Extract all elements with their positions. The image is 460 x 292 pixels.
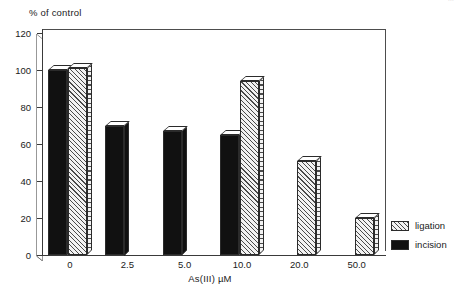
x-tick-label-5.0: 5.0	[178, 259, 191, 270]
plot-frame-top	[42, 29, 386, 30]
y-tick-120	[37, 33, 42, 34]
legend-item-ligation: ligation	[391, 219, 459, 235]
y-tick-label-60: 60	[20, 139, 31, 150]
y-tick-60	[37, 144, 42, 145]
y-tick-0	[37, 255, 42, 256]
bar-incision-5.0	[163, 131, 182, 255]
y-tick-100	[37, 70, 42, 71]
y-tick-label-80: 80	[20, 102, 31, 113]
bar-incision-0	[48, 70, 67, 255]
x-axis-line	[42, 255, 386, 256]
chart-canvas: ... % of control 020406080100120 02.55.0…	[0, 0, 460, 292]
y-tick-label-120: 120	[15, 28, 31, 39]
bar-front-face	[163, 131, 182, 255]
plot-area	[36, 29, 386, 256]
bar-front-face	[68, 68, 87, 255]
chart-legend: ligationincision	[391, 219, 459, 257]
bar-ligation-10.0	[240, 81, 259, 255]
legend-item-incision: incision	[391, 238, 459, 254]
bar-front-face	[240, 81, 259, 255]
bar-ligation-50.0	[355, 218, 374, 255]
bar-side-face	[259, 76, 264, 255]
bar-ligation-20.0	[297, 161, 316, 255]
bar-incision-10.0	[220, 135, 239, 255]
bar-side-face	[316, 156, 321, 255]
legend-label-incision: incision	[415, 239, 447, 250]
x-axis-title: As(III) µM	[0, 273, 420, 284]
y-tick-label-100: 100	[15, 65, 31, 76]
legend-label-ligation: ligation	[415, 220, 445, 231]
legend-swatch-ligation	[391, 221, 409, 231]
y-axis-title: % of control	[29, 7, 82, 18]
y-tick-label-40: 40	[20, 176, 31, 187]
bar-front-face	[355, 218, 374, 255]
y-tick-label-20: 20	[20, 213, 31, 224]
bar-side-face	[182, 126, 187, 255]
bar-ligation-0	[68, 68, 87, 255]
plot-frame-right	[385, 29, 386, 251]
y-tick-20	[37, 218, 42, 219]
bar-side-face	[87, 63, 92, 255]
bar-front-face	[220, 135, 239, 255]
y-tick-40	[37, 181, 42, 182]
x-tick-label-0: 0	[67, 259, 72, 270]
bar-incision-2.5	[105, 126, 124, 256]
legend-swatch-incision	[391, 240, 409, 250]
x-tick-label-50.0: 50.0	[347, 259, 366, 270]
x-axis-tick-labels: 02.55.010.020.050.0	[36, 259, 386, 273]
x-tick-label-2.5: 2.5	[121, 259, 134, 270]
x-tick-label-20.0: 20.0	[290, 259, 309, 270]
bar-side-face	[374, 213, 379, 255]
bar-side-face	[124, 121, 129, 256]
y-tick-label-0: 0	[26, 250, 31, 261]
y-axis-line	[42, 29, 43, 256]
header-faint-text: ...	[448, 0, 454, 2]
bar-front-face	[105, 126, 124, 256]
y-axis-tick-labels: 020406080100120	[0, 29, 31, 256]
bar-front-face	[297, 161, 316, 255]
bar-front-face	[48, 70, 67, 255]
x-tick-label-10.0: 10.0	[233, 259, 252, 270]
y-tick-80	[37, 107, 42, 108]
